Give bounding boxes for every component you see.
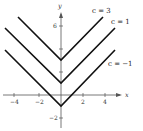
y-axis-label: y bbox=[57, 2, 62, 10]
curve-c1 bbox=[5, 28, 115, 83]
y-tick-label: 6 bbox=[53, 22, 57, 29]
curve-label-c3: c = 3 bbox=[92, 7, 111, 15]
x-tick-label: −2 bbox=[35, 98, 44, 105]
chart-svg: x y −4 −2 2 4 6 −2 c = 3 c = 1 bbox=[0, 0, 143, 131]
x-axis-arrow-icon bbox=[116, 93, 122, 97]
curve-label-c-neg1: c = −1 bbox=[108, 60, 133, 68]
x-tick-label: 4 bbox=[103, 98, 107, 105]
x-tick-label: 2 bbox=[81, 98, 85, 105]
y-tick-label: −2 bbox=[49, 114, 58, 121]
x-axis-label: x bbox=[125, 91, 129, 99]
x-tick-label: −4 bbox=[10, 98, 19, 105]
curve-label-c1: c = 1 bbox=[111, 18, 130, 26]
y-axis-arrow-icon bbox=[59, 12, 63, 18]
chart-container: x y −4 −2 2 4 6 −2 c = 3 c = 1 bbox=[0, 0, 143, 131]
